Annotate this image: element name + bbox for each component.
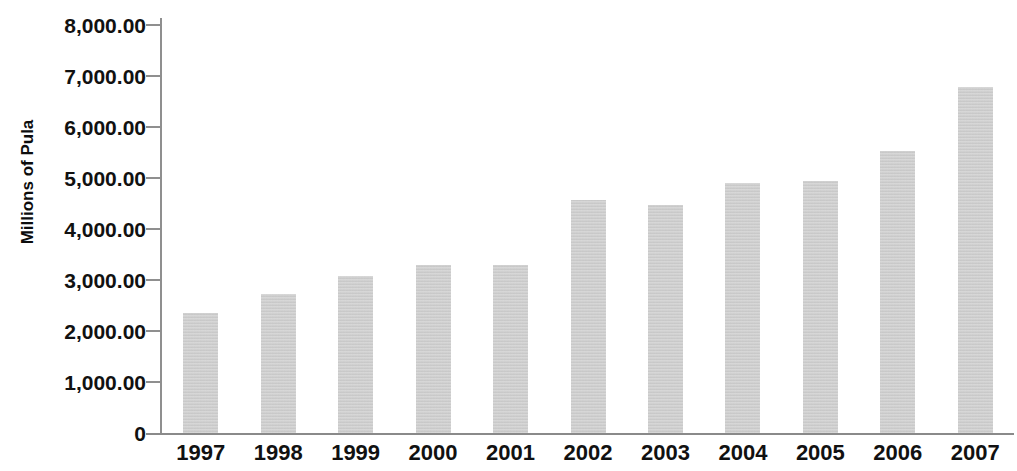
y-axis-tick-mark	[146, 177, 161, 179]
y-axis-tick-label: 4,000.00	[2, 219, 146, 240]
bar	[416, 265, 451, 433]
x-axis-tick-label: 2002	[549, 440, 627, 466]
bar	[338, 276, 373, 433]
y-axis-tick-label: 5,000.00	[2, 168, 146, 189]
x-axis-tick-label: 2005	[781, 440, 859, 466]
bar-chart: Millions of Pula 01,000.002,000.003,000.…	[0, 0, 1017, 471]
y-axis-tick-mark	[146, 75, 161, 77]
y-axis-tick-label: 3,000.00	[2, 270, 146, 291]
bar	[725, 183, 760, 433]
bar	[183, 313, 218, 433]
x-axis-tick-labels: 1997199819992000200120022003200420052006…	[162, 440, 1014, 471]
y-axis-tick-label: 6,000.00	[2, 117, 146, 138]
x-axis-line	[146, 433, 1014, 435]
bar	[880, 151, 915, 433]
y-axis-tick-mark	[146, 24, 161, 26]
y-axis-tick-label: 2,000.00	[2, 321, 146, 342]
bar	[803, 181, 838, 433]
y-axis-tick-label: 1,000.00	[2, 372, 146, 393]
x-axis-tick-label: 2004	[704, 440, 782, 466]
plot-area	[162, 0, 1014, 433]
y-axis-tick-label: 7,000.00	[2, 66, 146, 87]
y-axis-tick-label: 0	[2, 423, 146, 444]
bar	[571, 200, 606, 433]
y-axis-tick-mark	[146, 279, 161, 281]
y-axis-tick-labels: 01,000.002,000.003,000.004,000.005,000.0…	[0, 0, 146, 471]
x-axis-tick-label: 2007	[936, 440, 1014, 466]
bar	[958, 87, 993, 433]
y-axis-tick-label: 8,000.00	[2, 15, 146, 36]
x-axis-tick-label: 1998	[239, 440, 317, 466]
y-axis-tick-mark	[146, 381, 161, 383]
x-axis-tick-label: 1997	[162, 440, 240, 466]
bar	[648, 205, 683, 433]
x-axis-tick-label: 2003	[626, 440, 704, 466]
y-axis-tick-mark	[146, 228, 161, 230]
x-axis-tick-label: 2006	[859, 440, 937, 466]
y-axis-tick-mark	[146, 330, 161, 332]
x-axis-tick-label: 2001	[472, 440, 550, 466]
bar	[493, 265, 528, 433]
y-axis-tick-mark	[146, 126, 161, 128]
x-axis-tick-label: 2000	[394, 440, 472, 466]
x-axis-tick-label: 1999	[317, 440, 395, 466]
bar	[261, 294, 296, 433]
